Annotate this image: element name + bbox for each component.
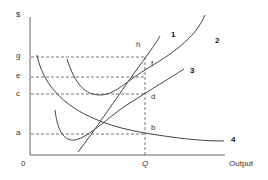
point-f-label: f [151,60,153,68]
curve-1 [78,36,160,152]
level-g-label: g [16,52,20,60]
y-axis-label: $ [16,11,20,19]
curve-3-label: 3 [190,67,194,75]
curve-2 [67,15,205,95]
origin-label: 0 [21,160,25,168]
q-label: Q [142,160,148,168]
x-axis-label: Output [229,160,253,168]
cost-curves-diagram: $ Output 0 Q g e c a h f d b 1 2 3 4 [0,0,268,180]
point-b-label: b [151,124,155,132]
level-e-label: e [16,72,20,80]
curve-4 [37,55,224,141]
curve-4-label: 4 [231,136,235,144]
point-h-label: h [136,41,140,49]
point-d-label: d [151,93,155,101]
curve-3 [55,69,184,140]
diagram-canvas [0,0,268,180]
level-c-label: c [16,90,20,98]
curve-1-label: 1 [171,31,175,39]
level-a-label: a [16,129,20,137]
curve-2-label: 2 [215,37,219,45]
